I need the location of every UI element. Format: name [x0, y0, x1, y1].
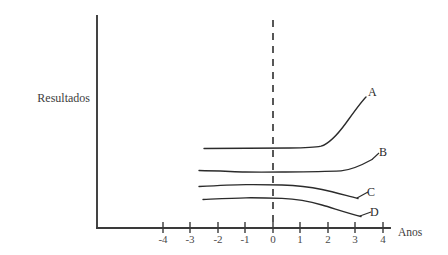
chart-page: -4 -3 -2 -1 0 1 2 3 4 A B C D Resultado — [0, 0, 448, 255]
series-curve-a — [204, 97, 366, 149]
series-label-b: B — [379, 145, 387, 159]
x-tick-label: 3 — [352, 233, 358, 245]
line-chart: -4 -3 -2 -1 0 1 2 3 4 A B C D Resultado — [0, 0, 448, 255]
x-axis-title: Anos — [398, 226, 423, 238]
series-curve-c — [199, 185, 358, 199]
x-tick-label: -1 — [240, 233, 249, 245]
x-tick-label: -4 — [158, 233, 168, 245]
series-label-d: D — [370, 205, 379, 219]
series-label-c: C — [367, 185, 375, 199]
x-axis-tick-labels: -4 -3 -2 -1 0 1 2 3 4 — [158, 233, 386, 245]
x-tick-label: 0 — [270, 233, 276, 245]
series-curve-b — [199, 160, 372, 173]
x-tick-label: -2 — [213, 233, 222, 245]
x-tick-label: 4 — [380, 233, 386, 245]
y-axis-title: Resultados — [37, 91, 90, 105]
x-tick-label: 1 — [297, 233, 303, 245]
x-tick-label: -3 — [185, 233, 195, 245]
series-label-a: A — [368, 85, 377, 99]
series-curve-d — [203, 198, 361, 217]
x-tick-label: 2 — [325, 233, 331, 245]
leader-line-b — [372, 153, 379, 160]
